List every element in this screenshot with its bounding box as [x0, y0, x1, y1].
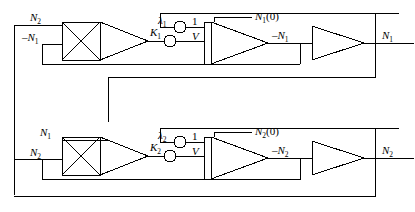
lambda-2-pot-circle[interactable] — [174, 136, 186, 148]
integrator-2-bar — [204, 137, 211, 179]
integrator-1-triangle — [211, 22, 268, 64]
ch2-integrator-output-label: –N2 — [271, 144, 289, 159]
ch1-initial-condition-wire — [214, 17, 252, 22]
ch1-output-down-to-ch2-bus — [108, 43, 375, 122]
ch1-mult-bottom-input-label: –N1 — [21, 31, 39, 46]
ch1-integrator-input-v-label: V — [192, 30, 200, 42]
ch1-inverter-output-label: N1 — [381, 29, 393, 44]
k-1-pot-circle[interactable] — [164, 35, 176, 47]
multiplier-2-cross — [62, 137, 100, 175]
k-2-label: K2 — [149, 141, 161, 156]
diagram-canvas: N2 –N1 λ1 K1 1 V N1(0) –N1 N1 N1 N2 λ2 K… — [0, 0, 415, 212]
inverter-2-triangle — [312, 141, 364, 175]
multiplier-2-triangle — [100, 137, 148, 175]
multiplier-1-triangle — [100, 22, 148, 60]
ch1-integrator-input-one-label: 1 — [192, 15, 198, 27]
ch2-inverter-output-label: N2 — [381, 144, 393, 159]
lambda-1-label: λ1 — [157, 14, 167, 29]
k-1-label: K1 — [149, 26, 161, 41]
analog-computer-diagram: N2 –N1 λ1 K1 1 V N1(0) –N1 N1 N1 N2 λ2 K… — [0, 0, 415, 212]
integrator-1-bar — [204, 22, 211, 64]
ch1-mult-top-input-label: N2 — [29, 11, 41, 26]
ch1-integrator-output-label: –N1 — [271, 29, 289, 44]
ch2-neg-output-tap — [42, 158, 300, 179]
ch2-initial-condition-wire — [214, 132, 252, 137]
multiplier-1-cross — [62, 22, 100, 60]
ch2-integrator-input-v-label: V — [192, 145, 200, 157]
integrator-2-triangle — [211, 137, 268, 179]
ch2-output-bottom-return-bus — [14, 158, 375, 196]
ch2-integrator-input-one-label: 1 — [192, 130, 198, 142]
lambda-2-label: λ2 — [157, 129, 167, 144]
lambda-1-pot-circle[interactable] — [174, 21, 186, 33]
inverter-1-triangle — [312, 26, 364, 60]
ch2-initial-condition-label: N2(0) — [254, 125, 279, 140]
ch2-mult-top-input-label: N1 — [39, 126, 51, 141]
ch1-initial-condition-label: N1(0) — [254, 10, 279, 25]
k-2-pot-circle[interactable] — [164, 150, 176, 162]
